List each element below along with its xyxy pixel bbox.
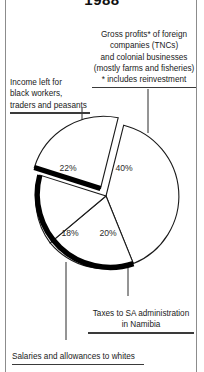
pie-value-label-40: 40% [115, 163, 133, 173]
pie-value-label-18: 18% [61, 228, 79, 238]
callout-taxes-underline [88, 332, 194, 333]
callout-gross-profits-underline [92, 87, 196, 88]
callout-taxes-text: Taxes to SA administration in Namibia [93, 309, 189, 329]
figure-root: 1988 40% 22% 20% 18% Gross profits* of f… [0, 0, 204, 372]
callout-gross-profits-text: Gross profits* of foreign companies (TNC… [94, 30, 195, 84]
callout-taxes: Taxes to SA administration in Namibia [88, 297, 194, 345]
callout-salaries: Salaries and allowances to whites [12, 340, 148, 372]
callout-salaries-underline [12, 364, 144, 365]
callout-income-left-text: Income left for black workers, traders a… [10, 78, 87, 109]
callout-income-left: Income left for black workers, traders a… [10, 66, 92, 125]
pie-value-label-20: 20% [99, 228, 117, 238]
callout-gross-profits: Gross profits* of foreign companies (TNC… [92, 18, 196, 99]
callout-income-left-underline [10, 112, 90, 113]
pie-value-label-22: 22% [59, 163, 77, 173]
callout-salaries-text: Salaries and allowances to whites [12, 352, 135, 361]
